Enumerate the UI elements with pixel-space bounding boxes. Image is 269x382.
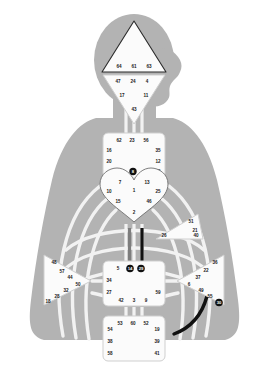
gate-29: 29 xyxy=(139,266,144,271)
gate-39: 39 xyxy=(154,339,160,344)
gate-41: 41 xyxy=(154,351,160,356)
bodygraph-chart: 64 61 63 47 24 4 17 11 43 62 23 56 16 35… xyxy=(0,0,269,382)
gate-48: 48 xyxy=(51,260,57,265)
gate-55: 55 xyxy=(207,294,213,299)
gate-56: 56 xyxy=(143,138,149,143)
gate-3: 3 xyxy=(133,298,136,303)
gate-22: 22 xyxy=(203,268,209,273)
gate-62: 62 xyxy=(116,138,122,143)
gate-38: 38 xyxy=(107,339,113,344)
gate-44: 44 xyxy=(67,275,73,280)
gate-6: 6 xyxy=(188,282,191,287)
gate-57: 57 xyxy=(59,269,65,274)
gate-52: 52 xyxy=(143,321,149,326)
gate-49: 49 xyxy=(198,288,204,293)
gate-60: 60 xyxy=(130,321,136,326)
gate-46: 46 xyxy=(146,199,152,204)
gate-37: 37 xyxy=(195,275,201,280)
gate-47: 47 xyxy=(115,79,121,84)
gate-16: 16 xyxy=(106,148,112,153)
gate-5: 5 xyxy=(117,266,120,271)
gate-2: 2 xyxy=(133,210,136,215)
gate-15: 15 xyxy=(115,199,121,204)
gate-28: 28 xyxy=(54,294,60,299)
gate-20: 20 xyxy=(106,159,112,164)
gate-58: 58 xyxy=(107,351,113,356)
gate-54: 54 xyxy=(107,327,113,332)
gate-13: 13 xyxy=(144,180,150,185)
gate-14: 14 xyxy=(128,266,133,271)
gate-64: 64 xyxy=(116,64,122,69)
gate-17: 17 xyxy=(119,93,125,98)
center-root[interactable]: 53 60 52 54 19 38 39 58 41 xyxy=(103,316,165,361)
gate-61: 61 xyxy=(131,64,137,69)
gate-59: 59 xyxy=(155,290,161,295)
gate-42: 42 xyxy=(118,298,124,303)
gate-1: 1 xyxy=(133,188,136,193)
gate-50: 50 xyxy=(75,282,81,287)
gate-10: 10 xyxy=(106,189,112,194)
gate-30: 30 xyxy=(217,300,222,305)
gate-63: 63 xyxy=(146,64,152,69)
gate-35: 35 xyxy=(155,148,161,153)
gate-32: 32 xyxy=(63,288,69,293)
gate-43: 43 xyxy=(131,107,137,112)
gate-21: 21 xyxy=(192,228,198,233)
gate-11: 11 xyxy=(144,93,149,98)
gate-26: 26 xyxy=(161,233,167,238)
gate-18: 18 xyxy=(45,299,51,304)
gate-40: 40 xyxy=(193,233,199,238)
gate-12: 12 xyxy=(155,159,161,164)
gate-24: 24 xyxy=(130,79,136,84)
center-sacral[interactable]: 5 14 29 34 27 59 42 3 9 xyxy=(103,261,165,306)
gate-34: 34 xyxy=(106,278,112,283)
gate-23: 23 xyxy=(129,138,135,143)
gate-25: 25 xyxy=(155,189,161,194)
gate-53: 53 xyxy=(117,321,123,326)
gate-7: 7 xyxy=(119,180,122,185)
gate-19: 19 xyxy=(154,327,160,332)
gate-9: 9 xyxy=(145,298,148,303)
gate-4: 4 xyxy=(146,79,149,84)
gate-27: 27 xyxy=(106,290,112,295)
gate-36: 36 xyxy=(212,260,218,265)
gate-51: 51 xyxy=(188,219,194,224)
